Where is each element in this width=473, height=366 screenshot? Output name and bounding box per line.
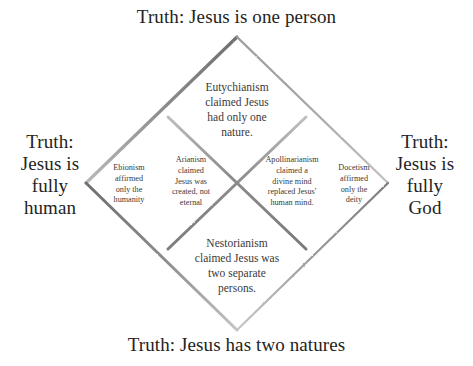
heresy-ebionism: Ebionism affirmed only the humanity xyxy=(98,163,160,206)
heresy-arianism: Arianism claimed Jesus was created, not … xyxy=(157,155,225,209)
truth-label-right: Truth: Jesus is fully God xyxy=(378,131,472,219)
truth-label-top: Truth: Jesus is one person xyxy=(0,6,473,28)
heresy-nestorianism: Nestorianism claimed Jesus was two separ… xyxy=(158,236,316,296)
truth-label-bottom: Truth: Jesus has two natures xyxy=(0,334,473,356)
diagram-canvas: Truth: Jesus is one person Truth: Jesus … xyxy=(0,0,473,366)
heresy-apollinarianism: Apollinarianism claimed a divine mind re… xyxy=(253,155,331,209)
truth-label-left: Truth: Jesus is fully human xyxy=(2,131,98,219)
heresy-docetism: Docetism affirmed only the deity xyxy=(327,163,381,206)
heresy-eutychianism: Eutychianism claimed Jesus had only one … xyxy=(166,80,308,140)
